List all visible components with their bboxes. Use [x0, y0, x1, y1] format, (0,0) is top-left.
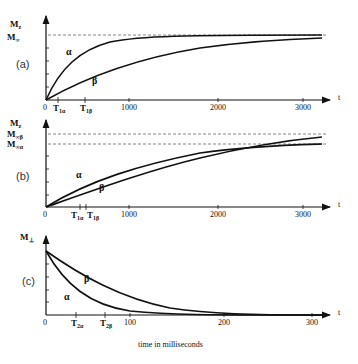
tick-3000: 3000 [295, 103, 311, 112]
tick-200: 200 [218, 318, 230, 327]
marker-t1b: T1β [87, 210, 99, 221]
beta-label: β [92, 75, 97, 86]
x-axis-title: time in milliseconds [138, 340, 203, 349]
panel-label-c: (c) [22, 275, 35, 287]
tick-1000: 1000 [121, 210, 137, 219]
panel-label-a: (a) [16, 58, 29, 70]
curve-beta [46, 137, 322, 207]
tick-100: 100 [124, 318, 136, 327]
tick-2000: 2000 [210, 210, 226, 219]
tick-0: 0 [43, 210, 47, 219]
beta-label: β [99, 182, 104, 193]
panel-label-b: (b) [16, 170, 29, 182]
alpha-label: α [66, 46, 72, 57]
alpha-label: α [76, 169, 82, 180]
marker-t1b: T1β [80, 103, 92, 114]
beta-label: β [84, 273, 89, 284]
t-axis-label: t [338, 308, 341, 317]
tick-2000: 2000 [210, 103, 226, 112]
curve-alpha [46, 144, 322, 207]
relaxation-figure: Mz M∞ (a) α β 0 T1α T1β 1000 2000 3000 t… [0, 0, 358, 364]
tick-0: 0 [43, 103, 47, 112]
panel-b: Mz M∞β M∞α (b) α β 0 T1α T1β 1000 2000 3… [7, 118, 341, 221]
y-label-mz: Mz [10, 19, 22, 30]
marker-t1a: T1α [71, 210, 84, 221]
curve-beta [46, 38, 322, 100]
marker-t2a: T2α [71, 318, 84, 329]
y-label-mz: Mz [10, 118, 22, 129]
alpha-label: α [64, 291, 70, 302]
curve-alpha [46, 35, 322, 100]
tick-0: 0 [43, 318, 47, 327]
y-label-minf-alpha: M∞α [7, 139, 24, 150]
y-label-minf: M∞ [7, 32, 21, 43]
tick-3000: 3000 [295, 210, 311, 219]
tick-1000: 1000 [121, 103, 137, 112]
panel-a: Mz M∞ (a) α β 0 T1α T1β 1000 2000 3000 t [7, 16, 341, 114]
y-label-mperp: M⊥ [20, 232, 34, 243]
tick-300: 300 [306, 318, 318, 327]
t-axis-label: t [338, 93, 341, 102]
marker-t2b: T2β [100, 318, 112, 329]
marker-t1a: T1α [53, 103, 66, 114]
t-axis-label: t [338, 200, 341, 209]
panel-c: M⊥ (c) α β 0 T2α T2β 100 200 300 t [20, 232, 341, 329]
